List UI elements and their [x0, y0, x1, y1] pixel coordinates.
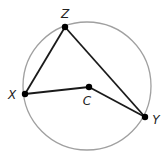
segment-xc	[25, 87, 89, 94]
label-c: C	[83, 94, 92, 108]
point-z	[62, 24, 68, 30]
segment-zy	[65, 27, 145, 117]
label-x: X	[7, 88, 17, 102]
point-x	[22, 91, 28, 97]
label-y: Y	[152, 113, 161, 127]
point-c	[86, 84, 92, 90]
geometry-diagram: Z X C Y	[0, 0, 166, 159]
segment-cy	[89, 87, 145, 117]
label-z: Z	[60, 7, 70, 21]
point-y	[142, 114, 148, 120]
